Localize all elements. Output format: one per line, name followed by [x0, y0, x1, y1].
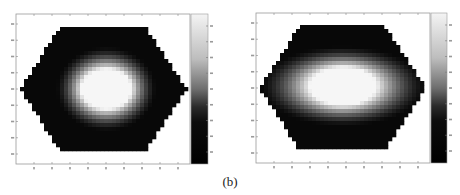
heatmap-cell [100, 27, 104, 31]
heatmap-cell [156, 47, 160, 51]
heatmap-cell [136, 43, 140, 47]
heatmap-cell [296, 145, 300, 149]
heatmap-cell [96, 147, 100, 151]
heatmap-cell [328, 81, 332, 85]
heatmap-cell [360, 125, 364, 129]
heatmap-cell [36, 111, 40, 115]
heatmap-cell [356, 33, 360, 37]
heatmap-cell [312, 93, 316, 97]
heatmap-cell [372, 77, 376, 81]
heatmap-cell [132, 55, 136, 59]
heatmap-cell [108, 27, 112, 31]
heatmap-cell [344, 29, 348, 33]
heatmap-cell [364, 29, 368, 33]
heatmap-cell [320, 113, 324, 117]
heatmap-cell [164, 71, 168, 75]
heatmap-cell [144, 147, 148, 151]
heatmap-cell [64, 123, 68, 127]
heatmap-cell [48, 71, 52, 75]
heatmap-cell [384, 73, 388, 77]
heatmap-cell [388, 81, 392, 85]
heatmap-cell [168, 87, 172, 91]
heatmap-cell [88, 71, 92, 75]
heatmap-cell [384, 121, 388, 125]
heatmap-cell [368, 41, 372, 45]
heatmap-cell [100, 139, 104, 143]
heatmap-cell [376, 129, 380, 133]
heatmap-cell [108, 51, 112, 55]
heatmap-cell [364, 65, 368, 69]
heatmap-cell [64, 87, 68, 91]
heatmap-cell [76, 35, 80, 39]
heatmap-cell [320, 81, 324, 85]
heatmap-cell [304, 145, 308, 149]
heatmap-cell [280, 89, 284, 93]
heatmap-cell [396, 89, 400, 93]
heatmap-cell [388, 105, 392, 109]
heatmap-cell [380, 25, 384, 29]
heatmap-cell [72, 123, 76, 127]
heatmap-cell [300, 25, 304, 29]
heatmap-cell [36, 79, 40, 83]
heatmap-cell [372, 141, 376, 145]
heatmap-cell [104, 103, 108, 107]
heatmap-cell [28, 91, 32, 95]
heatmap-cell [152, 127, 156, 131]
heatmap-cell [368, 25, 372, 29]
heatmap-cell [340, 93, 344, 97]
heatmap-cell [108, 59, 112, 63]
heatmap-cell [380, 49, 384, 53]
heatmap-cell [140, 39, 144, 43]
heatmap-cell [48, 95, 52, 99]
heatmap-cell [412, 69, 416, 73]
heatmap-cell [364, 89, 368, 93]
heatmap-cell [320, 37, 324, 41]
heatmap-cell [296, 57, 300, 61]
heatmap-cell [404, 65, 408, 69]
heatmap-cell [68, 51, 72, 55]
heatmap-cell [128, 59, 132, 63]
heatmap-cell [140, 27, 144, 31]
heatmap-cell [48, 67, 52, 71]
heatmap-cell [296, 97, 300, 101]
heatmap-cell [368, 89, 372, 93]
heatmap-cell [356, 145, 360, 149]
heatmap-cell [316, 29, 320, 33]
heatmap-cell [304, 125, 308, 129]
heatmap-cell [136, 95, 140, 99]
heatmap-cell [152, 99, 156, 103]
heatmap-cell [144, 35, 148, 39]
heatmap-cell [412, 93, 416, 97]
heatmap-cell [52, 55, 56, 59]
heatmap-cell [392, 89, 396, 93]
heatmap-cell [76, 59, 80, 63]
heatmap-cell [144, 111, 148, 115]
heatmap-cell [124, 147, 128, 151]
heatmap-cell [136, 131, 140, 135]
heatmap-cell [288, 121, 292, 125]
heatmap-cell [92, 71, 96, 75]
heatmap-cell [384, 65, 388, 69]
heatmap-cell [372, 41, 376, 45]
heatmap-cell [308, 57, 312, 61]
heatmap-cell [380, 89, 384, 93]
heatmap-cell [100, 107, 104, 111]
heatmap-cell [128, 135, 132, 139]
heatmap-cell [124, 91, 128, 95]
heatmap-cell [292, 137, 296, 141]
heatmap-cell [304, 101, 308, 105]
heatmap-cell [360, 57, 364, 61]
heatmap-cell [56, 63, 60, 67]
heatmap-cell [296, 61, 300, 65]
heatmap-cell [40, 111, 44, 115]
heatmap-cell [68, 147, 72, 151]
heatmap-cell [72, 63, 76, 67]
heatmap-cell [52, 83, 56, 87]
heatmap-cell [360, 141, 364, 145]
x-tick-label [381, 166, 383, 168]
heatmap-cell [308, 93, 312, 97]
heatmap-cell [320, 137, 324, 141]
heatmap-cell [124, 55, 128, 59]
heatmap-cell [48, 55, 52, 59]
heatmap-cell [116, 43, 120, 47]
